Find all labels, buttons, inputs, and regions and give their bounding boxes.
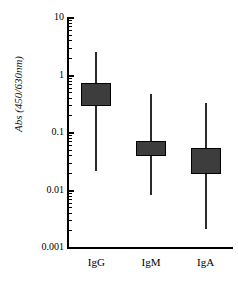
y-tick-minor bbox=[69, 58, 72, 59]
whisker-line bbox=[95, 52, 97, 171]
y-tick-minor bbox=[69, 135, 72, 136]
y-tick-major bbox=[69, 190, 74, 192]
x-axis-line bbox=[67, 247, 233, 249]
y-tick-minor bbox=[69, 81, 72, 82]
y-tick-minor bbox=[69, 84, 72, 85]
y-tick-label: 1 bbox=[6, 69, 64, 80]
y-tick-major bbox=[69, 247, 74, 249]
y-tick-minor bbox=[69, 48, 72, 49]
box-rect bbox=[81, 83, 111, 107]
y-tick-minor bbox=[69, 213, 72, 214]
y-tick-minor bbox=[69, 141, 72, 142]
y-tick-minor bbox=[69, 138, 72, 139]
y-tick-minor bbox=[69, 193, 72, 194]
y-tick-minor bbox=[69, 40, 72, 41]
y-tick-minor bbox=[69, 98, 72, 99]
y-tick-minor bbox=[69, 150, 72, 151]
y-tick-major bbox=[69, 132, 74, 134]
y-tick-minor bbox=[69, 199, 72, 200]
box-plot-figure: Abs (450/630nm) 1010.10.010.001 IgGIgMIg… bbox=[0, 0, 238, 287]
x-category-label: IgM bbox=[121, 256, 181, 268]
y-tick-minor bbox=[69, 35, 72, 36]
y-tick-minor bbox=[69, 145, 72, 146]
y-tick-minor bbox=[69, 115, 72, 116]
y-tick-label: 10 bbox=[6, 11, 64, 22]
y-tick-minor bbox=[69, 78, 72, 79]
y-tick-minor bbox=[69, 196, 72, 197]
y-tick-label: 0.01 bbox=[6, 184, 64, 195]
y-tick-label: 0.1 bbox=[6, 126, 64, 137]
y-tick-major bbox=[69, 17, 74, 19]
x-category-label: IgA bbox=[176, 256, 236, 268]
y-tick-minor bbox=[69, 163, 72, 164]
y-tick-minor bbox=[69, 173, 72, 174]
y-tick-minor bbox=[69, 92, 72, 93]
y-tick-minor bbox=[69, 220, 72, 221]
box-rect bbox=[136, 141, 166, 156]
y-tick-minor bbox=[69, 26, 72, 27]
y-tick-label: 0.001 bbox=[6, 241, 64, 252]
y-tick-major bbox=[69, 75, 74, 77]
y-tick-minor bbox=[69, 203, 72, 204]
y-tick-minor bbox=[69, 155, 72, 156]
y-tick-minor bbox=[69, 105, 72, 106]
y-tick-minor bbox=[69, 230, 72, 231]
y-tick-minor bbox=[69, 23, 72, 24]
x-category-label: IgG bbox=[66, 256, 126, 268]
y-axis-tick-labels: 1010.10.010.001 bbox=[0, 0, 64, 287]
y-tick-minor bbox=[69, 88, 72, 89]
y-tick-minor bbox=[69, 207, 72, 208]
box-rect bbox=[191, 148, 221, 174]
y-tick-minor bbox=[69, 20, 72, 21]
y-tick-minor bbox=[69, 30, 72, 31]
